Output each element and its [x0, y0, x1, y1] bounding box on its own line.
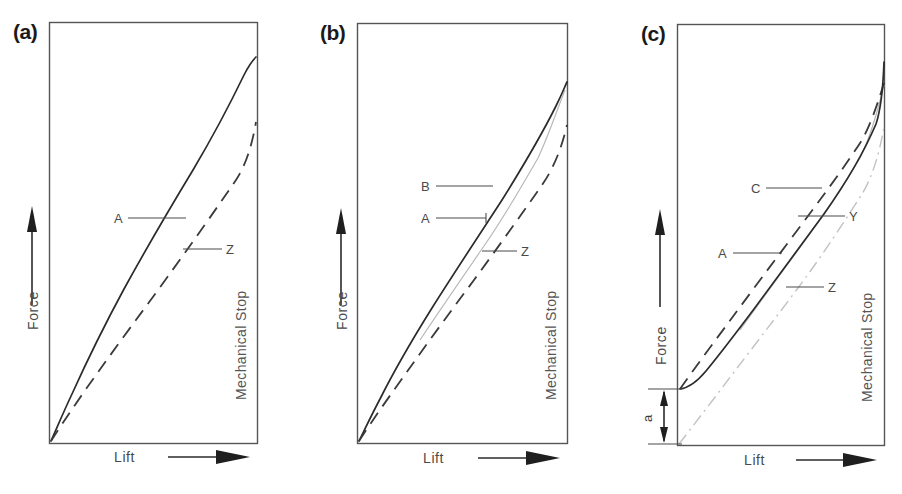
panel-c-curve-c: [680, 62, 884, 389]
panel-b-lift-arrowhead: [526, 451, 560, 465]
panel-a-y-axis-label: Force: [25, 291, 41, 330]
panel-b-curve-z: [359, 125, 567, 441]
panel-c-force-arrowhead: [655, 209, 665, 235]
panel-c-curve-y: [680, 83, 884, 389]
panel-c-label-c: C: [751, 181, 760, 196]
panel-b-y-axis-label: Force: [334, 291, 350, 330]
panel-a-mechanical-stop-label: Mechanical Stop: [233, 290, 249, 400]
panel-a-x-axis-label: Lift: [114, 449, 135, 465]
panel-c-x-axis-label: Lift: [744, 452, 765, 468]
panel-b-curve-b: [359, 82, 567, 441]
panel-b-label-z: Z: [521, 244, 529, 259]
panel-b-mechanical-stop-label: Mechanical Stop: [543, 290, 559, 400]
panel-b-label-a: A: [421, 211, 430, 226]
panel-c-offset-label: a: [640, 414, 655, 422]
panel-c-y-axis-label: Force: [653, 326, 669, 365]
panel-a-label-z: Z: [226, 242, 234, 257]
panel-a-curve-z: [51, 122, 256, 441]
panel-c-mechanical-stop-label: Mechanical Stop: [859, 292, 875, 402]
panel-c-frame: [678, 25, 885, 446]
panel-c-lift-arrowhead: [843, 453, 877, 467]
panel-b-force-arrowhead: [336, 208, 346, 234]
panel-b-x-axis-label: Lift: [423, 450, 444, 466]
panel-c-label-z: Z: [828, 280, 836, 295]
panel-a-force-arrowhead: [27, 206, 37, 232]
figure-panels: (a) A Z Force Lift Mechanical Stop (b): [0, 0, 902, 494]
panel-a-lift-arrowhead: [216, 450, 250, 464]
panel-b-plot: B A Z Force Lift Mechanical Stop: [290, 0, 600, 494]
panel-c-plot: C Y A Z a Force Lift Mechanical Stop: [600, 0, 902, 494]
panel-a-label-a: A: [114, 211, 123, 226]
panel-c-curve-z: [679, 126, 884, 444]
panel-a-frame: [50, 23, 258, 444]
panel-c-label-a: A: [718, 246, 727, 261]
panel-c-label-y: Y: [849, 209, 858, 224]
panel-b-label-b: B: [421, 179, 430, 194]
panel-c-offset-arrowhead-up: [660, 390, 668, 406]
panel-c-offset-arrowhead-down: [660, 427, 668, 443]
panel-a-plot: A Z Force Lift Mechanical Stop: [0, 0, 300, 494]
